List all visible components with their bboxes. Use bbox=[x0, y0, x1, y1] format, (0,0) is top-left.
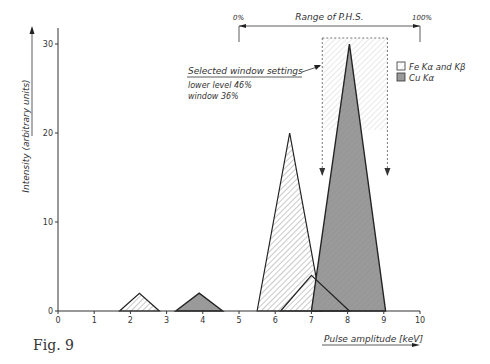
x-tick-label: 8 bbox=[345, 316, 350, 325]
x-tick-label: 5 bbox=[236, 316, 241, 325]
peaks bbox=[120, 44, 386, 311]
peak bbox=[176, 293, 223, 311]
arrow-left-icon bbox=[239, 24, 246, 28]
range-end-label: 100% bbox=[412, 14, 432, 22]
y-tick-label: 30 bbox=[43, 40, 53, 49]
x-tick-label: 9 bbox=[381, 316, 386, 325]
range-label: Range of P.H.S. bbox=[295, 12, 363, 22]
x-tick-label: 2 bbox=[128, 316, 133, 325]
x-tick-label: 4 bbox=[200, 316, 205, 325]
legend-label-cu: Cu Kα bbox=[409, 73, 435, 83]
arrow-up-icon bbox=[30, 26, 35, 34]
y-tick-label: 10 bbox=[43, 218, 53, 227]
arrow-right-icon bbox=[413, 24, 420, 28]
x-tick-label: 1 bbox=[92, 316, 97, 325]
lower-level-text: lower level 46% bbox=[188, 81, 252, 90]
x-tick-label: 10 bbox=[415, 316, 425, 325]
x-axis-label: Pulse amplitude [keV] bbox=[324, 334, 423, 344]
x-tick-label: 0 bbox=[55, 316, 60, 325]
window-settings-title: Selected window settings bbox=[188, 66, 303, 76]
x-tick-label: 3 bbox=[164, 316, 169, 325]
range-start-label: 0% bbox=[233, 14, 244, 22]
arrow-down-icon bbox=[384, 168, 390, 176]
figure-label: Fig. 9 bbox=[33, 337, 74, 353]
x-tick-label: 6 bbox=[273, 316, 278, 325]
legend-swatch-fe bbox=[397, 62, 405, 70]
peak bbox=[120, 293, 160, 311]
arrow-down-icon bbox=[319, 168, 325, 176]
y-axis-label: Intensity (arbitrary units) bbox=[21, 79, 31, 192]
legend-label-fe: Fe Kα and Kβ bbox=[409, 62, 466, 72]
window-text: window 36% bbox=[188, 92, 239, 101]
x-tick-label: 7 bbox=[309, 316, 314, 325]
peak bbox=[257, 133, 322, 311]
pulse-height-chart: 0123456789100102030Intensity (arbitrary … bbox=[0, 0, 490, 364]
y-tick-label: 0 bbox=[48, 307, 53, 316]
legend-swatch-cu bbox=[397, 73, 405, 81]
y-tick-label: 20 bbox=[43, 129, 53, 138]
